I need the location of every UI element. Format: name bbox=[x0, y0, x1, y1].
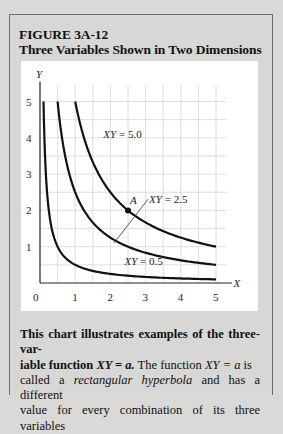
point-a-label: A bbox=[129, 194, 137, 206]
chart-panel: YX01234512345XY = 5.0XY = 2.5XY = 0.5A bbox=[21, 61, 258, 311]
caption-bold-1: This chart illustrates examples of the t… bbox=[20, 327, 260, 356]
curve-label: XY = 0.5 bbox=[123, 255, 163, 267]
y-tick-label: 5 bbox=[26, 96, 32, 108]
figure-title: Three Variables Shown in Two Dimensions bbox=[19, 42, 262, 57]
y-tick-label: 3 bbox=[26, 168, 32, 180]
point-a-marker bbox=[125, 207, 131, 213]
y-axis-label: Y bbox=[36, 68, 44, 80]
y-tick-label: 4 bbox=[26, 132, 32, 144]
caption-text: called a bbox=[20, 373, 74, 387]
chart: YX01234512345XY = 5.0XY = 2.5XY = 0.5A bbox=[21, 61, 258, 311]
y-tick-label: 1 bbox=[26, 241, 32, 253]
caption-bold-2: iable function bbox=[20, 358, 96, 372]
figure-caption: This chart illustrates examples of the t… bbox=[20, 327, 260, 434]
x-tick-label: 4 bbox=[178, 291, 184, 303]
x-axis-label: X bbox=[233, 277, 242, 289]
x-tick-label: 0 bbox=[33, 291, 39, 303]
x-tick-label: 2 bbox=[107, 291, 113, 303]
figure-label: FIGURE 3A-12 bbox=[19, 27, 108, 42]
y-tick-label: 2 bbox=[26, 204, 32, 216]
caption-eq: XY = a bbox=[205, 358, 241, 372]
x-tick-label: 3 bbox=[143, 291, 149, 303]
caption-bold-eq: XY = a. bbox=[96, 358, 134, 372]
curve-label: XY = 5.0 bbox=[102, 128, 142, 140]
caption-text: is bbox=[240, 358, 251, 372]
curve-label: XY = 2.5 bbox=[148, 193, 188, 205]
caption-text: value for every combination of its three… bbox=[20, 403, 260, 432]
x-tick-label: 1 bbox=[72, 291, 78, 303]
x-tick-label: 5 bbox=[213, 291, 219, 303]
caption-term: rectangular hyperbola bbox=[74, 373, 192, 387]
caption-text: The function bbox=[135, 358, 205, 372]
